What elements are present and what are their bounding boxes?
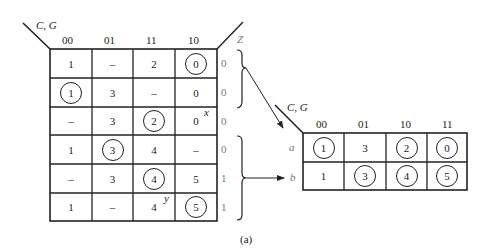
z-value: 0 <box>221 58 227 69</box>
circle-marker: 0 <box>436 137 458 159</box>
circle-marker: 4 <box>396 165 418 187</box>
left-cell: 5 <box>175 164 217 193</box>
circle-marker: 1 <box>60 82 82 104</box>
circle-marker: 3 <box>354 165 376 187</box>
left-cell-circled: 3 <box>92 135 133 164</box>
right-col-header-3: 11 <box>442 119 453 130</box>
right-col-header-2: 10 <box>400 119 411 130</box>
left-col-header-2: 11 <box>146 35 157 46</box>
left-cell: 3 <box>92 107 133 135</box>
left-cell: 1 <box>50 193 92 221</box>
z-value: 1 <box>221 173 227 184</box>
left-cell-circled: 2 <box>133 107 175 135</box>
circle-marker: 5 <box>185 196 207 218</box>
left-col-header-3: 10 <box>188 35 199 46</box>
right-col-header-1: 01 <box>358 119 369 130</box>
row-label-b: b <box>290 172 296 183</box>
left-cell-circled: 1 <box>50 78 92 107</box>
right-cell-circled: 5 <box>427 162 467 190</box>
left-cell: – <box>92 193 133 221</box>
left-cell: – <box>50 164 92 193</box>
right-cell: 1 <box>303 162 344 190</box>
right-cell-circled: 1 <box>303 133 344 162</box>
right-cell: 3 <box>344 133 386 162</box>
left-cell-circled: 5 <box>175 193 217 221</box>
annotation-x: x <box>204 107 209 118</box>
figure-caption: (a) <box>240 234 252 245</box>
circle-marker: 0 <box>185 53 207 75</box>
left-cell-circled: 4 <box>133 164 175 193</box>
circle-marker: 5 <box>436 165 458 187</box>
braces <box>237 50 246 220</box>
left-cell: – <box>50 107 92 135</box>
left-col-header-0: 00 <box>62 35 73 46</box>
left-cell: – <box>133 78 175 107</box>
right-col-header-0: 00 <box>316 119 327 130</box>
right-cell-circled: 4 <box>386 162 427 190</box>
right-cell-circled: 3 <box>344 162 386 190</box>
row-label-a: a <box>289 142 295 153</box>
left-cell: – <box>92 49 133 78</box>
left-cell: 2 <box>133 49 175 78</box>
arrows <box>246 68 284 178</box>
left-cell-circled: 0 <box>175 49 217 78</box>
circle-marker: 1 <box>313 137 335 159</box>
left-corner-label: C, G <box>36 20 57 31</box>
right-cell-circled: 0 <box>427 133 467 162</box>
right-corner-label: C, G <box>287 102 308 113</box>
left-cell: 3 <box>92 78 133 107</box>
left-cell: 4 <box>133 135 175 164</box>
z-value: 0 <box>221 87 227 98</box>
circle-marker: 2 <box>396 137 418 159</box>
left-cell: 3 <box>92 164 133 193</box>
left-cell: 0 <box>175 107 217 135</box>
circle-marker: 4 <box>143 168 165 190</box>
z-header: Z <box>237 34 243 45</box>
circle-marker: 3 <box>102 139 124 161</box>
left-cell: 1 <box>50 135 92 164</box>
left-col-header-1: 01 <box>104 35 115 46</box>
right-cell-circled: 2 <box>386 133 427 162</box>
left-cell: 0 <box>175 78 217 107</box>
z-value: 0 <box>221 144 227 155</box>
left-cell: – <box>175 135 217 164</box>
circle-marker: 2 <box>143 110 165 132</box>
left-cell: 1 <box>50 49 92 78</box>
z-value: 0 <box>221 116 227 127</box>
annotation-y: y <box>164 193 169 204</box>
z-value: 1 <box>221 202 227 213</box>
